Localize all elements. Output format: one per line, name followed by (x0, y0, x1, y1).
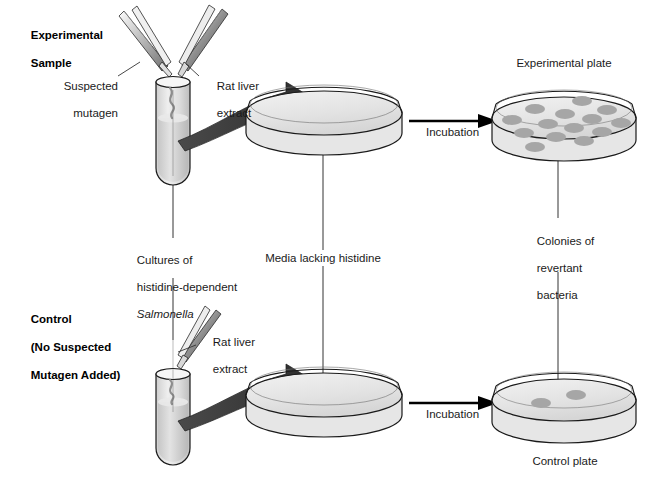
experimental-heading-line1: Experimental (31, 29, 103, 41)
control-plate (492, 372, 636, 443)
colony-control-1 (566, 390, 586, 400)
cultures-label: Cultures of histidine-dependent Salmonel… (124, 240, 237, 335)
leader-suspected-mutagen (118, 62, 140, 76)
colonies-label-line1: Colonies of (537, 235, 595, 247)
media-dish-control (246, 367, 402, 437)
colony-experimental-1 (525, 104, 545, 114)
experimental-plate (492, 90, 636, 161)
experimental-plate-label: Experimental plate (494, 57, 634, 71)
cultures-label-organism: Salmonella (137, 308, 194, 320)
colony-experimental-4 (502, 115, 522, 125)
control-heading: Control (No Suspected Mutagen Added) (18, 298, 120, 396)
media-dish-experimental (246, 85, 402, 155)
colony-experimental-8 (564, 123, 584, 133)
rat-liver-extract-label-ctl-line1: Rat liver (213, 336, 255, 348)
rat-liver-extract-label-control: Rat liver extract (200, 322, 255, 390)
control-heading-line1: Control (31, 313, 72, 325)
colony-experimental-3 (555, 109, 575, 119)
incubation-label-control: Incubation (410, 408, 495, 422)
suspected-mutagen-label-line2: mutagen (73, 107, 118, 119)
rat-liver-extract-label-experimental: Rat liver extract (204, 66, 259, 134)
colony-experimental-9 (514, 128, 534, 138)
colony-experimental-2 (597, 105, 617, 115)
suspected-mutagen-label: Suspected mutagen (30, 66, 118, 134)
colonies-of-revertant-bacteria-label: Colonies of revertant bacteria (524, 221, 594, 316)
control-heading-line3: Mutagen Added) (31, 369, 121, 381)
colony-experimental-7 (611, 118, 631, 128)
control-heading-line2: (No Suspected (31, 341, 112, 353)
colony-control-0 (531, 398, 551, 408)
rat-liver-extract-label-exp-line1: Rat liver (217, 80, 259, 92)
colony-experimental-10 (592, 127, 612, 137)
colonies-label-line2: revertant (537, 262, 582, 274)
cultures-label-line2: histidine-dependent (137, 281, 237, 293)
colony-experimental-0 (572, 96, 592, 106)
control-plate-label: Control plate (500, 455, 630, 469)
colony-experimental-11 (546, 132, 566, 142)
suspected-mutagen-label-line1: Suspected (64, 80, 118, 92)
test-tube-experimental (156, 77, 190, 186)
colonies-label-line3: bacteria (537, 289, 578, 301)
media-lacking-histidine-label: Media lacking histidine (253, 252, 393, 266)
rat-liver-extract-label-ctl-line2: extract (213, 363, 248, 375)
colony-experimental-6 (538, 119, 558, 129)
incubation-label-experimental: Incubation (410, 126, 495, 140)
colony-experimental-13 (525, 142, 545, 152)
rat-liver-extract-label-exp-line2: extract (217, 107, 252, 119)
colony-experimental-12 (574, 136, 594, 146)
suspected-mutagen-dropper-icon (119, 6, 172, 77)
ames-test-diagram: Experimental Sample Suspected mutagen Ra… (0, 0, 658, 490)
colony-experimental-5 (582, 114, 602, 124)
cultures-label-line1: Cultures of (137, 254, 193, 266)
